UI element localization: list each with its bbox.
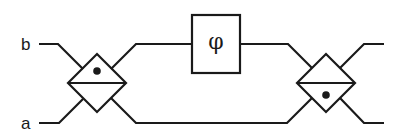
right-splitter-dot	[322, 91, 330, 99]
interferometer-diagram: b a φ	[0, 0, 408, 135]
lower-arm-wire	[111, 98, 312, 123]
output-lower-wire	[340, 98, 384, 123]
upper-arm-wire-right	[240, 44, 312, 68]
upper-arm-wire	[111, 44, 192, 69]
output-upper-wire	[340, 44, 384, 68]
circuit-lines	[0, 0, 408, 135]
input-a-wire	[39, 99, 83, 123]
input-b-label: b	[21, 36, 30, 53]
left-splitter-dot	[93, 67, 101, 75]
input-a-label: a	[21, 115, 30, 132]
phase-symbol: φ	[192, 31, 240, 53]
input-b-wire	[39, 44, 83, 69]
